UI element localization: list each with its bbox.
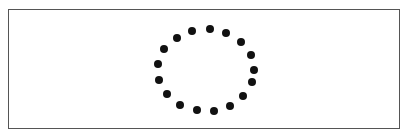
dot: [160, 45, 168, 53]
dot: [239, 92, 247, 100]
dotted-circle: [0, 0, 412, 139]
dot: [210, 107, 218, 115]
dot: [188, 27, 196, 35]
dot: [173, 34, 181, 42]
dot: [155, 76, 163, 84]
dot: [250, 66, 258, 74]
dot: [154, 60, 162, 68]
dot: [237, 38, 245, 46]
dot: [176, 101, 184, 109]
dot: [248, 78, 256, 86]
dot: [226, 102, 234, 110]
dot: [206, 25, 214, 33]
dot: [193, 106, 201, 114]
dot: [247, 51, 255, 59]
dot: [163, 90, 171, 98]
dot: [222, 29, 230, 37]
